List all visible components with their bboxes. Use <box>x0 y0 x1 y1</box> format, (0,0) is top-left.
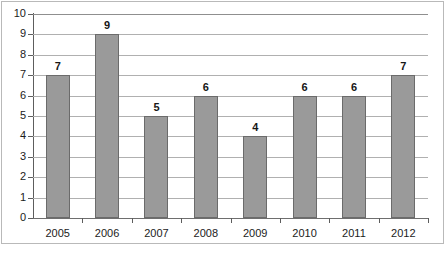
x-axis-label: 2010 <box>280 227 330 240</box>
gridline <box>33 198 428 199</box>
y-tick-label: 3 <box>2 151 26 162</box>
plot-area <box>33 14 428 218</box>
x-tick-mark <box>428 218 429 223</box>
y-tick-label: 1 <box>2 192 26 203</box>
bar-value-label: 6 <box>334 81 374 93</box>
gridline <box>33 96 428 97</box>
x-tick-mark <box>280 218 281 223</box>
x-tick-mark <box>379 218 380 223</box>
bar-chart-figure: 012345678910 79564667 200520062007200820… <box>0 0 446 256</box>
bar[interactable] <box>95 34 119 218</box>
bar[interactable] <box>391 75 415 218</box>
x-axis-label: 2012 <box>378 227 428 240</box>
bar-value-label: 6 <box>285 81 325 93</box>
x-axis-label: 2006 <box>82 227 132 240</box>
bar[interactable] <box>46 75 70 218</box>
x-tick-mark <box>329 218 330 223</box>
gridline <box>33 34 428 35</box>
x-axis-label: 2005 <box>33 227 83 240</box>
bar[interactable] <box>194 96 218 218</box>
y-tick-label: 5 <box>2 110 26 121</box>
x-tick-mark <box>82 218 83 223</box>
y-tick-label: 8 <box>2 49 26 60</box>
y-tick-label: 0 <box>2 212 26 223</box>
x-tick-mark <box>181 218 182 223</box>
bar-value-label: 9 <box>87 19 127 31</box>
y-axis-tick-labels: 012345678910 <box>0 0 26 256</box>
bar-value-label: 4 <box>235 121 275 133</box>
gridline <box>33 55 428 56</box>
bar[interactable] <box>144 116 168 218</box>
bar[interactable] <box>342 96 366 218</box>
gridline <box>33 136 428 137</box>
x-tick-mark <box>231 218 232 223</box>
gridline <box>33 116 428 117</box>
y-tick-label: 9 <box>2 28 26 39</box>
bar[interactable] <box>243 136 267 218</box>
bar[interactable] <box>293 96 317 218</box>
bar-value-label: 5 <box>136 101 176 113</box>
x-axis-label: 2011 <box>329 227 379 240</box>
x-axis-label: 2008 <box>181 227 231 240</box>
gridline <box>33 177 428 178</box>
x-axis-label: 2009 <box>230 227 280 240</box>
y-tick-label: 6 <box>2 90 26 101</box>
gridline <box>33 157 428 158</box>
x-tick-mark <box>132 218 133 223</box>
gridline <box>33 14 428 15</box>
bar-value-label: 6 <box>186 81 226 93</box>
y-tick-label: 2 <box>2 171 26 182</box>
gridline <box>33 75 428 76</box>
y-tick-label: 10 <box>2 8 26 19</box>
bar-value-label: 7 <box>38 60 78 72</box>
y-tick-label: 7 <box>2 69 26 80</box>
x-axis-label: 2007 <box>131 227 181 240</box>
y-tick-label: 4 <box>2 130 26 141</box>
bar-value-label: 7 <box>383 60 423 72</box>
